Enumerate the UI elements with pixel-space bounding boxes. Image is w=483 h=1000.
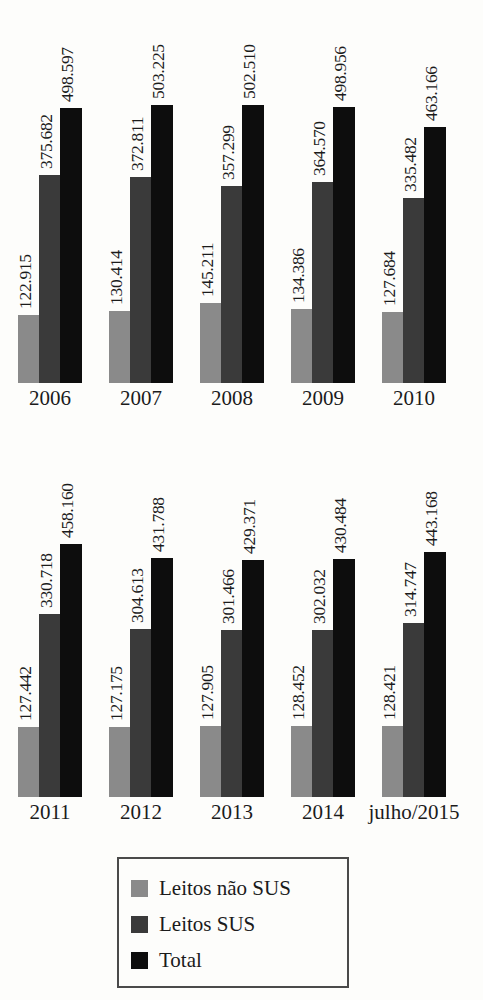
bar-chart-row-1: 122.915375.682498.5972006130.414372.8115… xyxy=(0,0,483,420)
bar-group-bars: 127.442330.718458.160 xyxy=(18,452,82,797)
bar-value-label: 357.299 xyxy=(218,125,239,180)
bar-group-2007: 130.414372.811503.2252007 xyxy=(109,38,173,383)
bar-2007-series-1[interactable]: 372.811 xyxy=(130,177,152,383)
bar-2006-series-1[interactable]: 375.682 xyxy=(39,175,61,383)
bar-group-2011: 127.442330.718458.1602011 xyxy=(18,452,82,797)
legend-label: Leitos SUS xyxy=(159,912,255,937)
bar-2009-series-1[interactable]: 364.570 xyxy=(312,182,334,383)
bar-julho-2015-series-0[interactable]: 128.421 xyxy=(382,726,404,797)
bar-group-2006: 122.915375.682498.5972006 xyxy=(18,38,82,383)
bar-2012-series-1[interactable]: 304.613 xyxy=(130,629,152,797)
bar-group-2010: 127.684335.482463.1662010 xyxy=(382,38,446,383)
bar-2011-series-0[interactable]: 127.442 xyxy=(18,727,40,797)
legend-swatch-icon xyxy=(131,916,148,933)
bar-group-bars: 127.684335.482463.166 xyxy=(382,38,446,383)
bar-group-bars: 127.905301.466429.371 xyxy=(200,452,264,797)
bar-value-label: 503.225 xyxy=(148,44,169,99)
legend-item-0[interactable]: Leitos não SUS xyxy=(131,870,347,906)
bar-group-bars: 130.414372.811503.225 xyxy=(109,38,173,383)
bar-2010-series-1[interactable]: 335.482 xyxy=(403,198,425,383)
bar-value-label: 429.371 xyxy=(239,499,260,554)
bar-group-bars: 134.386364.570498.956 xyxy=(291,38,355,383)
bar-2009-series-2[interactable]: 498.956 xyxy=(333,107,355,383)
bar-2013-series-1[interactable]: 301.466 xyxy=(221,630,243,797)
bar-2011-series-2[interactable]: 458.160 xyxy=(60,544,82,797)
bar-2007-series-2[interactable]: 503.225 xyxy=(151,105,173,383)
bar-group-bars: 122.915375.682498.597 xyxy=(18,38,82,383)
bar-group-2013: 127.905301.466429.3712013 xyxy=(200,452,264,797)
bar-group-bars: 145.211357.299502.510 xyxy=(200,38,264,383)
bar-value-label: 372.811 xyxy=(127,117,148,171)
bar-2006-series-2[interactable]: 498.597 xyxy=(60,108,82,383)
bar-value-label: 122.915 xyxy=(15,254,36,309)
bar-2011-series-1[interactable]: 330.718 xyxy=(39,614,61,797)
bar-group-2012: 127.175304.613431.7882012 xyxy=(109,452,173,797)
bar-2013-series-0[interactable]: 127.905 xyxy=(200,726,222,797)
category-label-2009: 2009 xyxy=(277,386,369,411)
bar-2014-series-0[interactable]: 128.452 xyxy=(291,726,313,797)
bar-group-julho-2015: 128.421314.747443.168julho/2015 xyxy=(382,452,446,797)
category-label-2008: 2008 xyxy=(186,386,278,411)
bar-julho-2015-series-2[interactable]: 443.168 xyxy=(424,552,446,797)
bar-2007-series-0[interactable]: 130.414 xyxy=(109,311,131,383)
bar-2010-series-2[interactable]: 463.166 xyxy=(424,127,446,383)
category-label-julho-2015: julho/2015 xyxy=(348,800,480,825)
bar-value-label: 431.788 xyxy=(148,497,169,552)
bar-group-bars: 128.421314.747443.168 xyxy=(382,452,446,797)
legend-item-2[interactable]: Total xyxy=(131,942,347,978)
category-label-2013: 2013 xyxy=(186,800,278,825)
bar-2014-series-1[interactable]: 302.032 xyxy=(312,630,334,797)
bar-2012-series-2[interactable]: 431.788 xyxy=(151,558,173,797)
bar-value-label: 364.570 xyxy=(309,121,330,176)
bar-group-2014: 128.452302.032430.4842014 xyxy=(291,452,355,797)
bar-group-bars: 128.452302.032430.484 xyxy=(291,452,355,797)
bar-2009-series-0[interactable]: 134.386 xyxy=(291,309,313,383)
bar-value-label: 130.414 xyxy=(106,250,127,305)
bar-value-label: 127.905 xyxy=(197,665,218,720)
bar-value-label: 128.421 xyxy=(379,665,400,720)
category-label-2011: 2011 xyxy=(4,800,96,825)
bar-value-label: 145.211 xyxy=(197,243,218,297)
bar-group-2009: 134.386364.570498.9562009 xyxy=(291,38,355,383)
bar-value-label: 330.718 xyxy=(36,553,57,608)
bar-value-label: 134.386 xyxy=(288,248,309,303)
bar-value-label: 375.682 xyxy=(36,114,57,169)
legend-swatch-icon xyxy=(131,952,148,969)
bar-value-label: 498.597 xyxy=(57,47,78,102)
bar-2008-series-1[interactable]: 357.299 xyxy=(221,186,243,383)
bar-value-label: 463.166 xyxy=(421,66,442,121)
category-label-2006: 2006 xyxy=(4,386,96,411)
bar-value-label: 335.482 xyxy=(400,137,421,192)
bar-2013-series-2[interactable]: 429.371 xyxy=(242,560,264,797)
bar-2014-series-2[interactable]: 430.484 xyxy=(333,559,355,797)
bar-value-label: 128.452 xyxy=(288,665,309,720)
bar-value-label: 127.442 xyxy=(15,666,36,721)
bar-value-label: 302.032 xyxy=(309,569,330,624)
bar-2010-series-0[interactable]: 127.684 xyxy=(382,312,404,383)
bar-2006-series-0[interactable]: 122.915 xyxy=(18,315,40,383)
category-label-2012: 2012 xyxy=(95,800,187,825)
bar-value-label: 127.684 xyxy=(379,251,400,306)
legend-swatch-icon xyxy=(131,880,148,897)
chart-legend: Leitos não SUSLeitos SUSTotal xyxy=(117,857,349,988)
bar-2008-series-0[interactable]: 145.211 xyxy=(200,303,222,383)
bar-value-label: 127.175 xyxy=(106,666,127,721)
bar-value-label: 502.510 xyxy=(239,44,260,99)
legend-item-1[interactable]: Leitos SUS xyxy=(131,906,347,942)
category-label-2010: 2010 xyxy=(368,386,460,411)
bar-value-label: 498.956 xyxy=(330,46,351,101)
bar-value-label: 314.747 xyxy=(400,562,421,617)
bar-value-label: 304.613 xyxy=(127,568,148,623)
bar-chart-row-2: 127.442330.718458.1602011127.175304.6134… xyxy=(0,414,483,834)
bar-julho-2015-series-1[interactable]: 314.747 xyxy=(403,623,425,797)
bar-2008-series-2[interactable]: 502.510 xyxy=(242,105,264,383)
bar-2012-series-0[interactable]: 127.175 xyxy=(109,727,131,797)
bar-value-label: 430.484 xyxy=(330,498,351,553)
bar-group-2008: 145.211357.299502.5102008 xyxy=(200,38,264,383)
bar-chart: 122.915375.682498.5972006130.414372.8115… xyxy=(0,0,483,1000)
bar-value-label: 443.168 xyxy=(421,491,442,546)
bar-value-label: 458.160 xyxy=(57,483,78,538)
legend-label: Total xyxy=(159,948,202,973)
bar-group-bars: 127.175304.613431.788 xyxy=(109,452,173,797)
legend-label: Leitos não SUS xyxy=(159,876,291,901)
